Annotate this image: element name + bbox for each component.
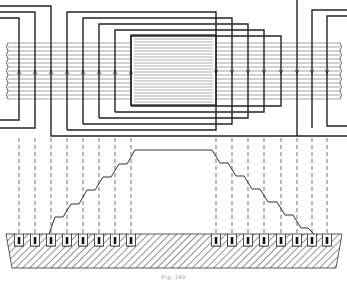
projection-lines — [19, 138, 327, 234]
slotted-iron — [6, 234, 342, 268]
mmf-step-curve — [49, 150, 314, 234]
winding-diagram: Fig. 160 — [0, 0, 347, 284]
core-block — [131, 35, 216, 105]
diagram-canvas — [0, 0, 347, 284]
figure-caption: Fig. 160 — [0, 274, 347, 280]
